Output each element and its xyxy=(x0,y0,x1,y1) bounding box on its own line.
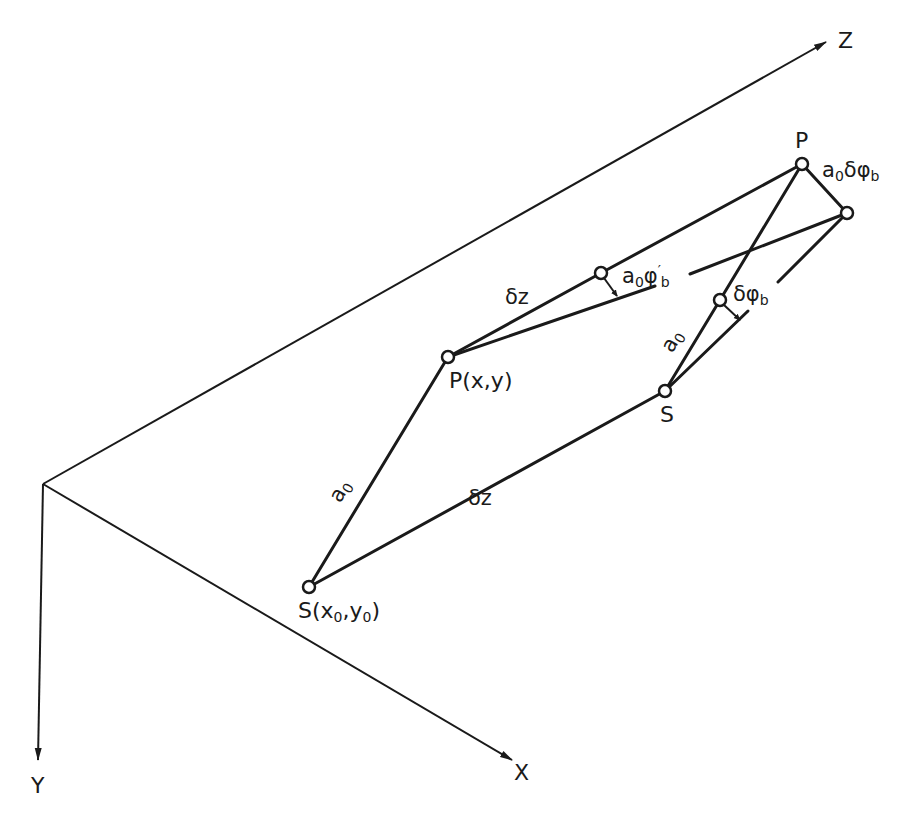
dz-bottom-label: δz xyxy=(468,488,492,509)
geometry-svg xyxy=(0,0,919,826)
edge-node-to-p xyxy=(720,164,802,300)
node-source-origin xyxy=(303,581,315,593)
edge-far-to-down xyxy=(778,213,847,282)
point-shifted-label: P xyxy=(795,130,808,152)
edge-a0-left xyxy=(309,357,448,587)
dphi-b-label: δφb xyxy=(733,284,769,307)
point-xy-label: P(x,y) xyxy=(449,370,512,392)
node-far-right xyxy=(841,207,853,219)
z-axis xyxy=(43,42,826,484)
dz-top-label: δz xyxy=(505,287,529,308)
node-point-xy xyxy=(442,351,454,363)
source-origin-label: S(x0,y0) xyxy=(298,600,380,624)
source-shifted-label: S xyxy=(660,404,674,426)
y-axis-label: Y xyxy=(31,775,44,797)
edge-rotated-ray-left xyxy=(448,286,655,357)
construction-lines xyxy=(309,164,847,587)
node-source-shifted xyxy=(659,385,671,397)
diagram-canvas: Z X Y S(x0,y0) P(x,y) S P a0 δz δz a0 a0… xyxy=(0,0,919,826)
node-mid-right xyxy=(714,294,726,306)
node-point-shifted xyxy=(796,158,808,170)
x-axis-label: X xyxy=(514,762,529,784)
rotation-arrow-right xyxy=(724,305,740,320)
a0-phi-prime-label: a0φ′b xyxy=(622,263,670,289)
node-mid-top xyxy=(595,267,607,279)
x-axis xyxy=(43,484,512,760)
axes xyxy=(38,42,826,760)
z-axis-label: Z xyxy=(838,30,853,52)
edge-mid-to-p xyxy=(601,164,802,273)
rotation-arrow-left xyxy=(604,278,617,296)
a0-dphi-b-label: a0δφb xyxy=(822,160,879,183)
y-axis xyxy=(38,484,43,760)
